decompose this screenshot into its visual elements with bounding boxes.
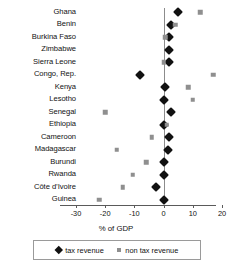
category-label: Burundi: [0, 158, 76, 166]
data-point: [131, 172, 136, 177]
data-point: [120, 185, 125, 190]
data-point: [144, 160, 149, 165]
category-axis-labels: GhanaBeninBurkina FasoZimbabweSierra Leo…: [0, 0, 76, 200]
legend-item: tax revenue: [56, 246, 104, 255]
data-point: [150, 135, 155, 140]
legend-item: non tax revenue: [117, 246, 179, 255]
x-axis-tick: [76, 205, 77, 208]
x-axis-tick: [164, 205, 165, 208]
data-point: [198, 10, 203, 15]
data-point: [159, 195, 169, 205]
data-point: [160, 82, 170, 92]
legend-item-label: tax revenue: [65, 246, 104, 255]
data-point: [115, 147, 120, 152]
category-label: Congo, Rep.: [0, 70, 76, 78]
category-label: Lesotho: [0, 95, 76, 103]
data-point: [173, 22, 178, 27]
data-point: [166, 107, 176, 117]
category-label: Ghana: [0, 8, 76, 16]
category-label: Sierra Leone: [0, 58, 76, 66]
data-point: [159, 170, 169, 180]
x-axis-tick-label: -10: [129, 209, 140, 218]
data-point: [173, 7, 183, 17]
x-axis-tick-label: -30: [71, 209, 82, 218]
category-label: Senegal: [0, 108, 76, 116]
square-marker-icon: [117, 248, 122, 253]
data-point: [159, 157, 169, 167]
data-point: [103, 110, 108, 115]
chart-legend: tax revenuenon tax revenue: [33, 240, 201, 260]
data-point: [135, 70, 145, 80]
data-point: [164, 122, 169, 127]
data-point: [164, 132, 174, 142]
data-point: [97, 197, 102, 202]
category-label: Côte d’Ivoire: [0, 183, 76, 191]
plot-area: [76, 8, 222, 204]
data-point: [161, 60, 166, 65]
x-axis-tick-label: 10: [189, 209, 197, 218]
data-point: [163, 35, 168, 40]
category-label: Rwanda: [0, 170, 76, 178]
category-label: Benin: [0, 20, 76, 28]
category-label: Zimbabwe: [0, 45, 76, 53]
x-axis-tick-label: -20: [100, 209, 111, 218]
x-axis-tick-label: 20: [218, 209, 226, 218]
data-point: [191, 97, 196, 102]
data-point: [164, 57, 174, 67]
category-label: Burkina Faso: [0, 33, 76, 41]
diamond-marker-icon: [55, 246, 63, 254]
data-point: [159, 95, 169, 105]
x-axis-tick: [134, 205, 135, 208]
x-axis-tick: [193, 205, 194, 208]
x-axis-tick: [105, 205, 106, 208]
data-point: [186, 85, 191, 90]
category-label: Madagascar: [0, 145, 76, 153]
x-axis-tick: [222, 205, 223, 208]
category-label: Cameroon: [0, 133, 76, 141]
x-axis: -30-20-1001020: [60, 205, 216, 207]
category-label: Guinea: [0, 195, 76, 203]
x-axis-title: % of GDP: [0, 224, 232, 233]
x-axis-tick-label: 0: [162, 209, 166, 218]
data-point: [211, 72, 216, 77]
category-label: Ethiopia: [0, 120, 76, 128]
scatter-chart: GhanaBeninBurkina FasoZimbabweSierra Leo…: [0, 0, 232, 266]
legend-item-label: non tax revenue: [125, 246, 178, 255]
data-point: [151, 182, 161, 192]
category-label: Kenya: [0, 83, 76, 91]
data-point: [164, 45, 174, 55]
